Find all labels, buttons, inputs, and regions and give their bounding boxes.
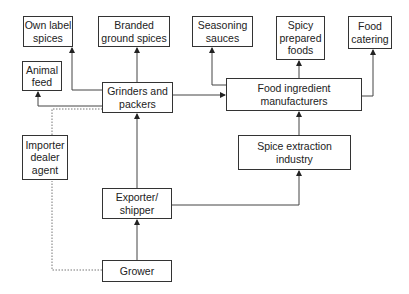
node-own-label-spices: Own label spices — [23, 16, 73, 47]
edge-exporter-extraction — [172, 171, 299, 205]
edge-grinders-ownlabel — [72, 48, 102, 90]
edge-grower-importer-dotted — [52, 181, 102, 270]
node-exporter-shipper: Exporter/ shipper — [102, 188, 172, 219]
edge-importer-grinders-dotted — [52, 109, 102, 135]
node-food-ingredient-manufacturers: Food ingredient manufacturers — [226, 78, 362, 111]
node-seasoning-sauces: Seasoning sauces — [192, 16, 253, 47]
node-animal-feed: Animal feed — [22, 61, 62, 91]
edge-grinders-animalfeed — [38, 92, 102, 106]
edge-foodingredient-seasoning — [212, 48, 226, 85]
node-spicy-prepared-foods: Spicy prepared foods — [276, 16, 325, 60]
node-importer-dealer-agent: Importer dealer agent — [22, 135, 68, 180]
node-spice-extraction-industry: Spice extraction industry — [238, 135, 351, 170]
node-grinders-and-packers: Grinders and packers — [102, 82, 173, 113]
node-food-catering: Food catering — [348, 16, 392, 49]
edge-foodingredient-catering — [362, 50, 373, 96]
node-branded-ground-spices: Branded ground spices — [98, 16, 170, 47]
node-grower: Grower — [102, 260, 172, 282]
